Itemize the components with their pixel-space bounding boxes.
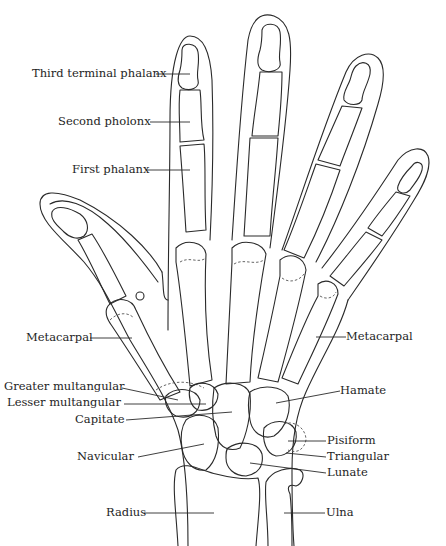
label-ulna: Ulna xyxy=(326,506,354,519)
label-lunate: Lunate xyxy=(327,466,368,479)
label-metacarpal-right: Metacarpal xyxy=(346,330,413,343)
label-first-phalanx: First phalanx xyxy=(72,163,149,176)
label-lesser-multangular: Lesser multangular xyxy=(7,396,121,409)
label-second-phalanx: Second pholonx xyxy=(58,115,151,128)
label-greater-multangular: Greater multangular xyxy=(4,380,125,393)
forearm-bones xyxy=(174,466,303,546)
label-hamate: Hamate xyxy=(340,384,386,397)
label-pisiform: Pisiform xyxy=(327,434,376,447)
carpals xyxy=(156,382,306,476)
hand-bones-diagram xyxy=(0,0,446,546)
label-navicular: Navicular xyxy=(77,450,134,463)
label-capitate: Capitate xyxy=(75,413,125,426)
metacarpals xyxy=(106,242,338,400)
label-third-terminal-phalanx: Third terminal phalanx xyxy=(32,67,166,80)
label-triangular: Triangular xyxy=(327,450,389,463)
label-radius: Radius xyxy=(106,506,146,519)
label-metacarpal-left: Metacarpal xyxy=(26,331,93,344)
